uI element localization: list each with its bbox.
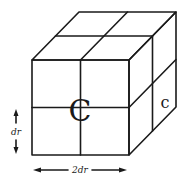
horizontal-dimension-arrow: 2dr bbox=[33, 165, 127, 175]
arrow-up-icon bbox=[14, 109, 19, 116]
vertical-dimension-arrow: dr bbox=[11, 109, 22, 154]
dr-label: dr bbox=[11, 127, 22, 137]
arrow-down-icon bbox=[14, 147, 19, 154]
top-face bbox=[32, 12, 176, 60]
right-face bbox=[129, 12, 176, 155]
center-label-C: C bbox=[69, 93, 92, 128]
right-face-label-c: c bbox=[161, 93, 170, 112]
cube-diagram: C c dr 2dr bbox=[0, 0, 187, 185]
arrow-right-icon bbox=[119, 168, 127, 173]
2dr-label: 2dr bbox=[71, 165, 88, 175]
arrow-left-icon bbox=[33, 168, 41, 173]
